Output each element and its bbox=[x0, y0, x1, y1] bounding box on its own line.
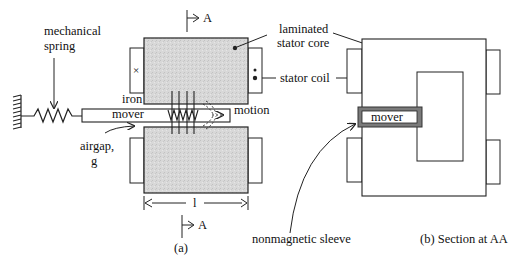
stator-core-top bbox=[144, 38, 248, 104]
coil-b-bottom-left bbox=[347, 138, 362, 182]
coil-b-bottom-right bbox=[486, 140, 500, 184]
section-label-bottom: A bbox=[198, 218, 207, 232]
iron-label: iron bbox=[122, 92, 143, 106]
core-window bbox=[417, 72, 463, 161]
stator-core-bottom bbox=[144, 127, 248, 193]
section-marker-bottom bbox=[182, 215, 194, 238]
length-label: l bbox=[193, 196, 197, 210]
coil-b-top-left bbox=[347, 49, 362, 93]
actuator-diagram: mechanical spring × iron mover bbox=[0, 0, 530, 268]
coil-cross-symbol: × bbox=[133, 64, 139, 76]
coil-bottom-left bbox=[130, 138, 144, 183]
part-a-side-view: mechanical spring × iron mover bbox=[13, 10, 270, 255]
coil-dot-symbol bbox=[254, 69, 257, 72]
coil-bottom-right bbox=[248, 138, 262, 183]
laminated-label-line2: stator core bbox=[277, 36, 330, 50]
motion-label: motion bbox=[234, 103, 270, 117]
coil-b-top-right bbox=[486, 50, 500, 94]
laminated-label-line1: laminated bbox=[279, 22, 329, 36]
nonmagnetic-sleeve-label: nonmagnetic sleeve bbox=[252, 232, 351, 246]
airgap-label-line2: g bbox=[91, 154, 98, 168]
caption-b: (b) Section at AA bbox=[420, 232, 508, 246]
mover-label: mover bbox=[112, 107, 145, 121]
section-label-top: A bbox=[203, 11, 212, 25]
iron-mover bbox=[82, 109, 230, 122]
mechanical-spring bbox=[21, 109, 82, 122]
airgap-label-line1: airgap, bbox=[80, 139, 114, 153]
spring-label-line1: mechanical bbox=[44, 24, 101, 38]
part-b-section-view: mover (b) Section at AA bbox=[347, 39, 508, 246]
section-marker-top bbox=[187, 10, 199, 32]
spring-label-line2: spring bbox=[44, 39, 76, 53]
fixed-wall-icon bbox=[13, 95, 21, 129]
mover-b-label: mover bbox=[371, 110, 404, 124]
stator-coil-label: stator coil bbox=[280, 71, 330, 85]
caption-a: (a) bbox=[174, 241, 188, 255]
